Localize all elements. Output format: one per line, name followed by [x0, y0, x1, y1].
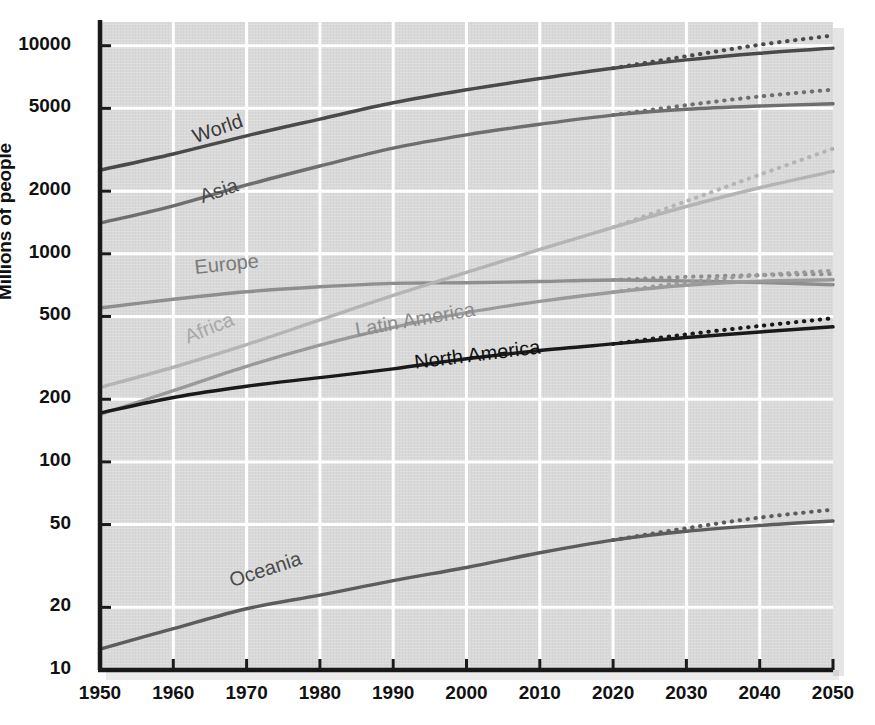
chart-plot-area: WorldAsiaEuropeAfricaLatin AmericaNorth …: [0, 0, 875, 725]
population-chart-figure: Millions of people 102050100200500100020…: [0, 0, 875, 725]
